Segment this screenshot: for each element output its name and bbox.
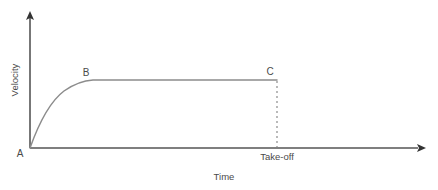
y-axis xyxy=(26,11,34,148)
velocity-curve xyxy=(30,80,277,148)
point-label-a: A xyxy=(17,148,24,159)
y-axis-title: Velocity xyxy=(9,63,20,96)
x-axis xyxy=(30,144,426,152)
point-label-c: C xyxy=(266,66,273,77)
point-label-b: B xyxy=(83,67,90,78)
velocity-time-graph: A B C Take-off Time Velocity xyxy=(0,0,438,190)
x-axis-title: Time xyxy=(214,171,235,182)
x-tick-label-takeoff: Take-off xyxy=(260,151,294,162)
chart-canvas: A B C Take-off Time Velocity xyxy=(0,0,438,190)
x-axis-arrowhead xyxy=(417,144,426,152)
